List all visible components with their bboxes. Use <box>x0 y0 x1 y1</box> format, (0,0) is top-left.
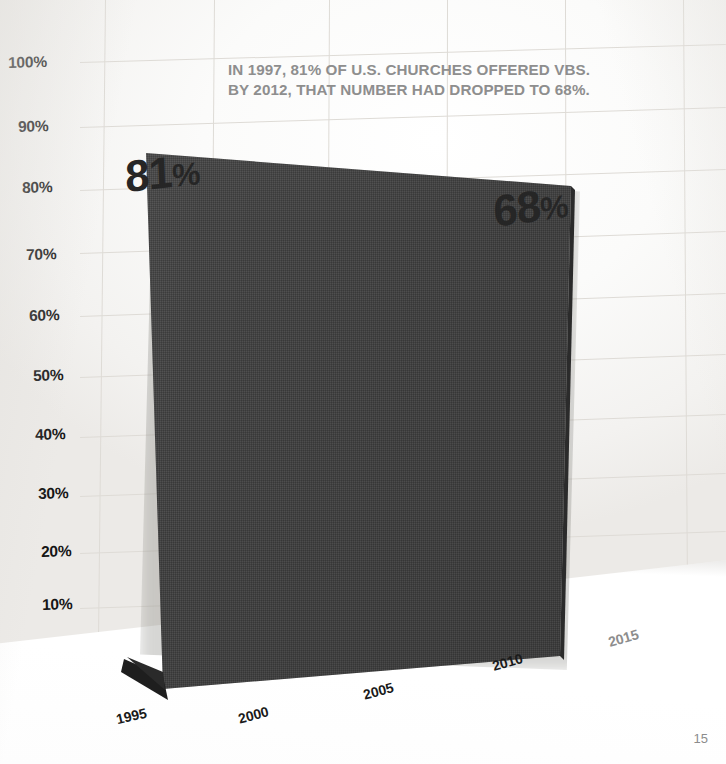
y-axis-label-80: 80% <box>22 178 53 197</box>
percent-sign: % <box>539 188 569 228</box>
percent-sign: % <box>171 155 200 194</box>
y-axis-label-20: 20% <box>41 542 72 561</box>
value-label-81: 81% <box>124 147 200 199</box>
y-axis-label-10: 10% <box>42 595 73 614</box>
y-axis-label-70: 70% <box>26 245 57 264</box>
y-axis-label-50: 50% <box>33 366 64 385</box>
y-axis-label-30: 30% <box>38 484 69 503</box>
y-axis-label-90: 90% <box>18 117 49 136</box>
value-number: 68 <box>492 180 542 236</box>
y-axis-label-100: 100% <box>8 53 47 72</box>
y-axis-label-60: 60% <box>29 306 60 325</box>
page-number: 15 <box>694 731 708 746</box>
headline-line-1: IN 1997, 81% OF U.S. CHURCHES OFFERED VB… <box>228 60 698 80</box>
gridline-horizontal-1 <box>80 107 726 128</box>
value-number: 81 <box>124 147 172 201</box>
gridline-vertical-0 <box>98 0 106 640</box>
y-axis-label-40: 40% <box>35 425 66 444</box>
infographic-page: IN 1997, 81% OF U.S. CHURCHES OFFERED VB… <box>0 0 726 764</box>
headline: IN 1997, 81% OF U.S. CHURCHES OFFERED VB… <box>228 60 698 100</box>
headline-line-2: BY 2012, THAT NUMBER HAD DROPPED TO 68%. <box>228 80 698 100</box>
